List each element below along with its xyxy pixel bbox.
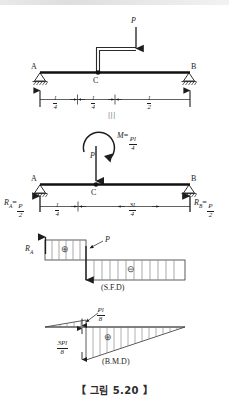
panel2-reaction-a-label: RA=P2	[4, 199, 24, 219]
sfd-negative-sign: ⊖	[127, 265, 135, 274]
sfd-ra-label: RA	[25, 245, 33, 255]
sfd-p-label: P	[105, 236, 110, 244]
panel1-dim-3: l2	[146, 91, 153, 111]
top-edge-strip	[0, 0, 229, 5]
panel1-support-b-label: B	[191, 63, 196, 71]
panel2-dim-1: l4	[54, 198, 61, 218]
panel1-load-label: P	[131, 17, 136, 25]
bmd-peak-positive-label: Pl8	[96, 303, 105, 323]
panel-separator-mark: |||	[108, 110, 116, 119]
figure-caption: 【 그림 5.20 】	[0, 382, 229, 397]
panel2-dim-2: 3l4	[128, 198, 136, 218]
panel2-reaction-b-label: RB=P2	[194, 199, 214, 219]
panel2-support-b-label: B	[191, 175, 196, 183]
bmd-positive-sign: ⊕	[104, 333, 112, 342]
bmd-peak-negative-label: 3Pl8	[56, 336, 69, 356]
bmd-title: (B.M.D)	[102, 358, 130, 366]
panel2-point-c-label: C	[91, 189, 96, 197]
sfd-title: (S.F.D)	[101, 284, 124, 292]
panel2-support-a-label: A	[31, 175, 37, 183]
sfd-positive-sign: ⊕	[61, 245, 69, 254]
panel1-point-c-label: C	[93, 77, 98, 85]
panel2-moment-label: M=Pl4	[117, 132, 137, 152]
panel1-support-a-label: A	[31, 63, 37, 71]
panel1-dim-1: l4	[52, 91, 59, 111]
panel1-dim-2: l4	[90, 91, 97, 111]
panel2-load-label: P	[90, 152, 95, 160]
figure-5-20: P A B C l4 l4 l2 ||| P M=Pl4 A B C RA=P2…	[0, 0, 229, 411]
